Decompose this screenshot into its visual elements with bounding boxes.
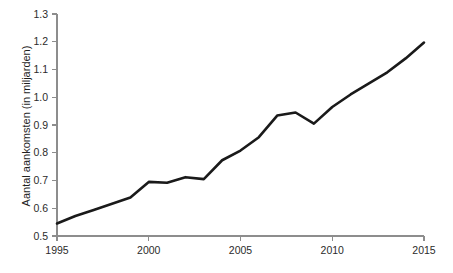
y-axis-tick-labels: 0.50.60.70.80.91.01.11.21.3 bbox=[33, 8, 48, 242]
y-tick-label: 0.7 bbox=[33, 174, 48, 186]
x-tick-label: 2015 bbox=[412, 244, 436, 256]
y-tick-label: 0.6 bbox=[33, 202, 48, 214]
y-tick-label: 1.0 bbox=[33, 91, 48, 103]
y-tick-label: 0.5 bbox=[33, 230, 48, 242]
y-tick-label: 0.9 bbox=[33, 119, 48, 131]
y-axis-title-group: Aantal aankomsten (in miljarden) bbox=[20, 46, 32, 207]
chart-canvas: Aantal aankomsten (in miljarden) 0.50.60… bbox=[0, 0, 453, 273]
y-tick-label: 1.3 bbox=[33, 8, 48, 20]
y-tick-label: 0.8 bbox=[33, 146, 48, 158]
x-tick-label: 2005 bbox=[229, 244, 253, 256]
axis-tick-marks bbox=[52, 14, 424, 241]
x-tick-label: 2010 bbox=[321, 244, 345, 256]
y-tick-label: 1.1 bbox=[33, 63, 48, 75]
y-axis-title: Aantal aankomsten (in miljarden) bbox=[20, 46, 32, 207]
x-tick-label: 2000 bbox=[137, 244, 161, 256]
y-tick-label: 1.2 bbox=[33, 35, 48, 47]
x-tick-label: 1995 bbox=[45, 244, 69, 256]
data-series-line bbox=[57, 43, 424, 224]
line-chart: Aantal aankomsten (in miljarden) 0.50.60… bbox=[0, 0, 453, 273]
x-axis-tick-labels: 19952000200520102015 bbox=[45, 244, 436, 256]
